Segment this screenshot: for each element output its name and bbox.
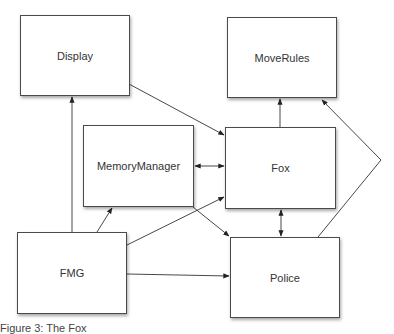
node-fmg: FMG (17, 232, 127, 314)
node-moverules: MoveRules (227, 17, 337, 98)
node-label: FMG (60, 267, 84, 279)
node-display: Display (20, 15, 130, 96)
edge-fmg-memorymanager (97, 208, 112, 232)
figure-caption: Figure 3: The Fox (0, 322, 87, 334)
node-label: Display (57, 50, 93, 62)
edge-memorymanager-police (193, 207, 229, 236)
node-fox: Fox (225, 127, 336, 209)
node-police: Police (230, 237, 340, 318)
node-label: Fox (271, 162, 289, 174)
node-label: MemoryManager (97, 160, 180, 172)
node-label: Police (270, 272, 300, 284)
node-memorymanager: MemoryManager (83, 125, 194, 207)
edge-fmg-police (127, 274, 229, 276)
node-label: MoveRules (254, 52, 309, 64)
